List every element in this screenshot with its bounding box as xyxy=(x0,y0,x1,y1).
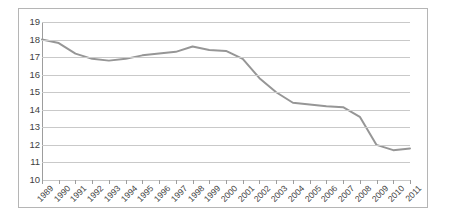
gridline xyxy=(42,110,410,111)
x-axis-tick xyxy=(410,180,411,184)
gridline xyxy=(42,92,410,93)
x-axis-tick-label: 2002 xyxy=(253,184,273,204)
y-axis-tick-label: 18 xyxy=(14,35,40,45)
x-axis-tick-label: 1996 xyxy=(153,184,173,204)
x-axis-tick-label: 2007 xyxy=(337,184,357,204)
x-axis-tick-label: 1997 xyxy=(169,184,189,204)
x-axis-tick-label: 2008 xyxy=(353,184,373,204)
x-axis-tick-label: 2009 xyxy=(370,184,390,204)
gridline xyxy=(42,40,410,41)
plot-area xyxy=(42,22,410,180)
y-axis-tick-label: 17 xyxy=(14,52,40,62)
x-axis-tick-label: 1999 xyxy=(203,184,223,204)
y-axis-tick-label: 13 xyxy=(14,123,40,133)
x-axis-tick-label: 2006 xyxy=(320,184,340,204)
gridline xyxy=(42,145,410,146)
x-axis-tick-label: 1992 xyxy=(86,184,106,204)
gridline xyxy=(42,57,410,58)
line-series xyxy=(42,22,410,180)
x-axis-tick-label: 1994 xyxy=(119,184,139,204)
y-axis-tick-label: 14 xyxy=(14,105,40,115)
x-axis-tick-label: 1991 xyxy=(69,184,89,204)
x-axis-tick-label: 2005 xyxy=(303,184,323,204)
x-axis-tick-label: 2003 xyxy=(270,184,290,204)
y-axis: 19181716151413121110 xyxy=(8,0,40,224)
chart-container: 19181716151413121110 1989199019911992199… xyxy=(0,0,450,224)
gridline xyxy=(42,127,410,128)
x-axis-tick-label: 1998 xyxy=(186,184,206,204)
y-axis-tick-label: 10 xyxy=(14,175,40,185)
y-axis-tick-label: 16 xyxy=(14,70,40,80)
gridline xyxy=(42,162,410,163)
gridline xyxy=(42,75,410,76)
x-axis-tick-label: 1993 xyxy=(102,184,122,204)
y-axis-tick-label: 19 xyxy=(14,17,40,27)
y-axis-tick-label: 12 xyxy=(14,140,40,150)
y-axis-tick-label: 15 xyxy=(14,87,40,97)
x-axis-tick-label: 2004 xyxy=(286,184,306,204)
y-axis-tick-label: 11 xyxy=(14,158,40,168)
x-axis: 1989199019911992199319941995199619971998… xyxy=(42,184,410,224)
x-axis-tick-label: 1995 xyxy=(136,184,156,204)
x-axis-tick-label: 2000 xyxy=(219,184,239,204)
x-axis-tick-label: 2010 xyxy=(387,184,407,204)
gridline xyxy=(42,22,410,23)
